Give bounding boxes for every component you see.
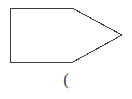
pentagon-arrow-outline-icon [10, 8, 122, 62]
caption-parenthesis: ( [0, 70, 132, 99]
diagram-canvas: ( [0, 0, 132, 99]
